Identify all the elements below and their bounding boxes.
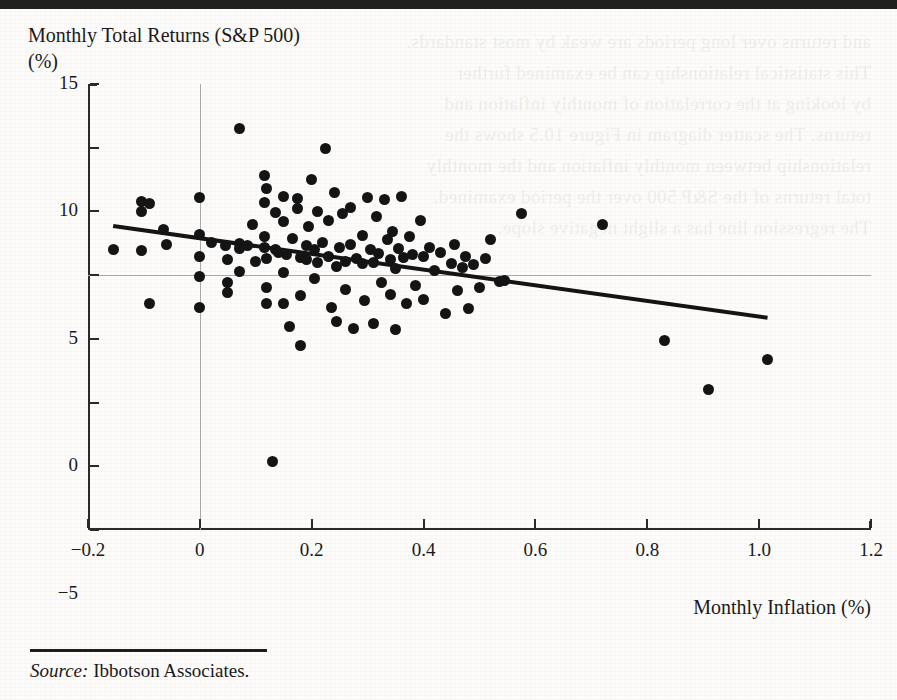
scatter-point <box>222 287 233 298</box>
scatter-point <box>144 198 155 209</box>
scatter-point <box>357 258 368 269</box>
chart-title: Monthly Total Returns (S&P 500) <box>28 22 300 48</box>
scatter-point <box>429 265 440 276</box>
scatter-point <box>278 216 289 227</box>
scatter-point <box>390 324 401 335</box>
scatter-point <box>194 251 205 262</box>
scatter-point <box>261 253 272 264</box>
scatter-point <box>474 282 485 293</box>
scatter-point <box>362 192 373 203</box>
source-note: Source: Ibbotson Associates. <box>30 660 249 682</box>
x-axis-tick-label: 1.0 <box>747 539 771 561</box>
scatter-point <box>108 244 119 255</box>
scatter-point <box>234 123 245 134</box>
chart-title-unit: (%) <box>28 48 58 74</box>
scatter-point <box>222 254 233 265</box>
scatter-point <box>359 295 370 306</box>
scatter-point <box>261 298 272 309</box>
scatter-point <box>357 230 368 241</box>
scatter-point <box>485 234 496 245</box>
scatter-point <box>329 187 340 198</box>
y-axis-tick-label: 15 <box>59 72 78 94</box>
scatter-point <box>158 224 169 235</box>
scatter-point <box>463 303 474 314</box>
scatter-point <box>278 298 289 309</box>
scatter-point <box>144 298 155 309</box>
y-axis-tick-label: 10 <box>59 199 78 221</box>
scatter-point <box>206 237 217 248</box>
scatter-point <box>287 233 298 244</box>
scatter-point <box>415 215 426 226</box>
scatter-point <box>334 242 345 253</box>
source-label: Source: <box>30 660 88 681</box>
scatter-point <box>340 256 351 267</box>
scatter-point <box>312 257 323 268</box>
scatter-point <box>499 275 510 286</box>
x-axis-title: Monthly Inflation (%) <box>693 596 871 619</box>
x-axis-tick-label: −0.2 <box>71 539 105 561</box>
scatter-point <box>261 183 272 194</box>
scatter-point <box>340 284 351 295</box>
scatter-point <box>259 242 270 253</box>
scatter-point <box>295 290 306 301</box>
scatter-point <box>261 282 272 293</box>
scatter-point <box>303 221 314 232</box>
x-axis-tick-label: 0.4 <box>412 539 436 561</box>
scatter-point <box>435 247 446 258</box>
scatter-point <box>385 289 396 300</box>
scatter-point <box>345 239 356 250</box>
x-axis-tick-label: 0.8 <box>635 539 659 561</box>
scatter-point <box>306 174 317 185</box>
scatter-point <box>348 323 359 334</box>
scatter-point <box>449 239 460 250</box>
scatter-point <box>323 251 334 262</box>
source-text: Ibbotson Associates. <box>93 660 249 681</box>
scatter-point <box>267 456 278 467</box>
scatter-points-layer <box>88 84 871 530</box>
scatter-point <box>326 302 337 313</box>
source-divider-rule <box>30 649 267 652</box>
x-axis-tick-label: 0 <box>195 539 205 561</box>
scatter-point <box>194 192 205 203</box>
scatter-point <box>457 262 468 273</box>
scatter-point <box>278 267 289 278</box>
scatter-point <box>396 191 407 202</box>
scatter-point <box>323 215 334 226</box>
scatter-point <box>250 256 261 267</box>
scatter-point <box>373 248 384 259</box>
scatter-point <box>387 226 398 237</box>
scatter-point <box>281 249 292 260</box>
scatter-point <box>312 206 323 217</box>
scatter-point <box>220 240 231 251</box>
scatter-point <box>659 335 670 346</box>
scatter-point <box>703 384 714 395</box>
scatter-point <box>376 277 387 288</box>
scatter-point <box>762 354 773 365</box>
y-axis-tick-label: −5 <box>58 581 78 603</box>
scatter-point <box>234 266 245 277</box>
y-axis-tick-label: 5 <box>69 326 79 348</box>
scatter-point <box>345 202 356 213</box>
scatter-point <box>242 240 253 251</box>
scatter-point <box>317 237 328 248</box>
scatter-point <box>284 321 295 332</box>
scatter-chart-figure: Monthly Total Returns (S&P 500) (%) 1510… <box>0 0 897 700</box>
scatter-point <box>194 229 205 240</box>
scatter-point <box>440 308 451 319</box>
scatter-point <box>259 197 270 208</box>
scatter-point <box>452 285 463 296</box>
scatter-point <box>259 231 270 242</box>
scatter-point <box>301 254 312 265</box>
x-axis-tick-label: 0.6 <box>524 539 548 561</box>
x-axis-tick-label: 1.2 <box>859 539 883 561</box>
plot-area: 151050−5−10−15−20 −0.200.20.40.60.81.01.… <box>88 84 871 530</box>
scatter-point <box>259 170 270 181</box>
scatter-point <box>407 249 418 260</box>
scatter-point <box>247 219 258 230</box>
scatter-point <box>278 191 289 202</box>
scatter-point <box>404 231 415 242</box>
scatter-point <box>309 273 320 284</box>
x-axis-tick-label: 0.2 <box>300 539 324 561</box>
scatter-point <box>516 208 527 219</box>
scatter-point <box>468 259 479 270</box>
